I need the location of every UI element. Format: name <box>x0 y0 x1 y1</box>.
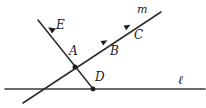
label-point-a: A <box>69 45 78 57</box>
arrow-tick-b-icon <box>101 40 108 45</box>
point-a-dot <box>73 65 78 70</box>
arrow-tick-e-icon <box>48 27 56 33</box>
arrow-tick-c-icon <box>124 25 131 30</box>
geometry-canvas <box>0 0 206 108</box>
line-ed <box>38 20 94 90</box>
label-point-d: D <box>95 71 105 83</box>
label-point-c: C <box>134 29 143 41</box>
label-point-b: B <box>110 45 119 57</box>
label-point-e: E <box>56 19 65 31</box>
point-d-dot <box>91 87 96 92</box>
label-line-l: ℓ <box>178 74 183 86</box>
label-line-m: m <box>137 4 147 15</box>
geometry-figure: E A B C D m ℓ <box>0 0 206 108</box>
